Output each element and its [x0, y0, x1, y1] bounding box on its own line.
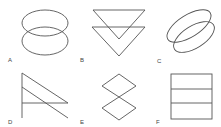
panel-c: C [157, 3, 219, 64]
panel-label-b: B [80, 57, 84, 63]
panel-label-e: E [80, 119, 84, 125]
panel-b: B [80, 10, 145, 63]
panel-f: F [156, 74, 212, 125]
triangle-top [93, 10, 145, 39]
tilted-ellipse-top [162, 3, 216, 48]
rectangle [171, 74, 212, 119]
figure-canvas: A B C D E F [0, 0, 221, 127]
panel-label-c: C [157, 58, 162, 64]
diamond-bottom [102, 97, 136, 120]
panel-e: E [80, 74, 136, 125]
ellipse-bottom [22, 27, 68, 55]
diamond-top [102, 74, 136, 97]
panel-label-f: F [156, 119, 160, 125]
panel-a: A [8, 10, 68, 63]
diagonal-line-2 [22, 87, 68, 118]
panel-label-a: A [8, 57, 12, 63]
panel-d: D [8, 73, 68, 125]
triangle-bottom [92, 27, 145, 56]
panel-label-d: D [8, 119, 13, 125]
ellipse-top [22, 10, 68, 36]
diagonal-line-1 [22, 73, 68, 103]
